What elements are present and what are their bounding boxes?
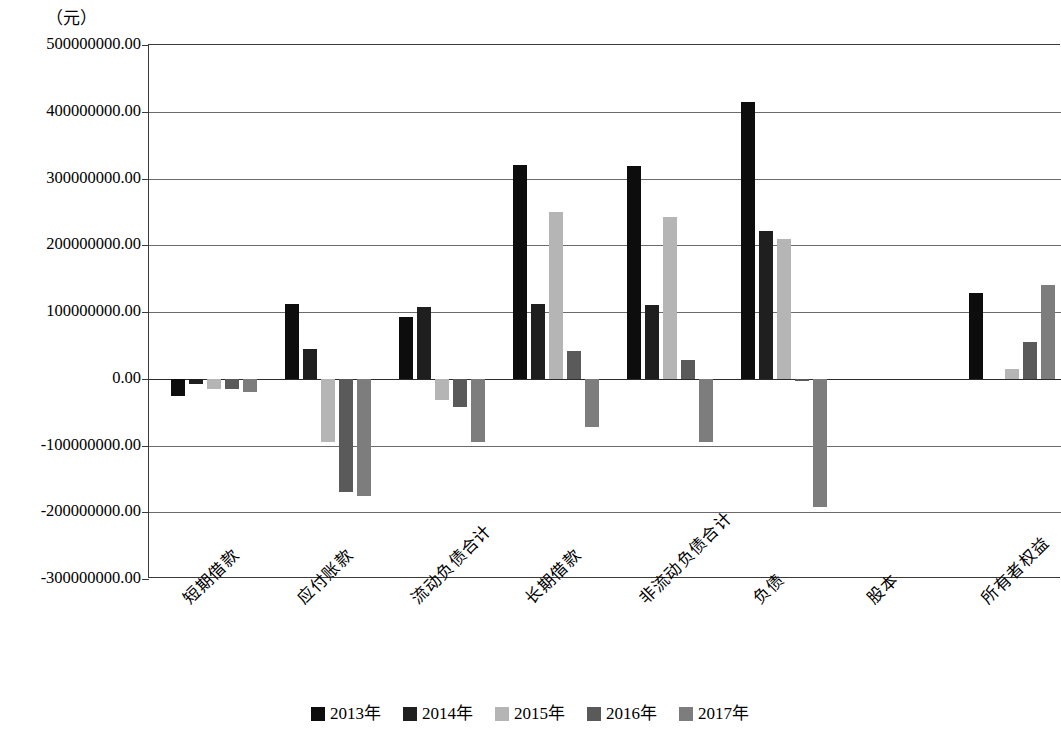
bar[interactable]	[663, 217, 677, 379]
bar[interactable]	[813, 379, 827, 507]
bar[interactable]	[417, 307, 431, 378]
plot-area	[148, 44, 1060, 578]
legend-swatch-icon	[495, 707, 509, 721]
y-axis-tick	[142, 512, 149, 513]
bar[interactable]	[513, 165, 527, 379]
bar[interactable]	[549, 212, 563, 379]
legend-label: 2013年	[330, 705, 381, 722]
bar[interactable]	[357, 379, 371, 496]
bar[interactable]	[285, 304, 299, 379]
legend-item[interactable]: 2015年	[495, 705, 565, 722]
y-axis-tick-label: 300000000.00	[46, 168, 141, 188]
y-axis-tick	[142, 245, 149, 246]
y-axis-tick-label: 100000000.00	[46, 301, 141, 321]
y-axis-tick-label: 200000000.00	[46, 234, 141, 254]
bar-group	[741, 45, 827, 579]
legend-label: 2014年	[422, 705, 473, 722]
bar-group	[855, 45, 941, 579]
legend-swatch-icon	[587, 707, 601, 721]
y-axis-unit-label: （元）	[46, 4, 97, 29]
bar[interactable]	[1023, 342, 1037, 379]
bar[interactable]	[777, 239, 791, 379]
legend-label: 2016年	[606, 705, 657, 722]
y-axis-tick-label: -100000000.00	[41, 435, 141, 455]
y-axis-tick	[142, 446, 149, 447]
bar[interactable]	[681, 360, 695, 379]
bar[interactable]	[171, 379, 185, 396]
bar-group	[399, 45, 485, 579]
bar[interactable]	[645, 305, 659, 378]
bar[interactable]	[225, 379, 239, 390]
y-axis-tick-label: -300000000.00	[41, 568, 141, 588]
bar[interactable]	[453, 379, 467, 407]
bar[interactable]	[243, 379, 257, 392]
bar[interactable]	[339, 379, 353, 492]
y-axis-tick-label: -200000000.00	[41, 501, 141, 521]
bar-group	[171, 45, 257, 579]
y-axis-tick	[142, 312, 149, 313]
legend-label: 2015年	[514, 705, 565, 722]
legend-item[interactable]: 2017年	[679, 705, 749, 722]
bar[interactable]	[567, 351, 581, 379]
bar[interactable]	[969, 293, 983, 378]
legend-swatch-icon	[679, 707, 693, 721]
legend-swatch-icon	[403, 707, 417, 721]
legend-label: 2017年	[698, 705, 749, 722]
bar[interactable]	[321, 379, 335, 442]
legend-swatch-icon	[311, 707, 325, 721]
bar[interactable]	[471, 379, 485, 442]
bar[interactable]	[741, 102, 755, 379]
bar[interactable]	[207, 379, 221, 389]
x-axis-category-labels: 短期借款应付账款流动负债合计长期借款非流动负债合计负债股本所有者权益	[148, 578, 1060, 688]
bar[interactable]	[1005, 369, 1019, 379]
bar[interactable]	[435, 379, 449, 400]
bar-group	[285, 45, 371, 579]
y-axis-tick	[142, 179, 149, 180]
bar[interactable]	[1041, 285, 1055, 378]
bar-group	[969, 45, 1055, 579]
bar-group	[627, 45, 713, 579]
legend-item[interactable]: 2016年	[587, 705, 657, 722]
y-axis-tick	[142, 112, 149, 113]
bar[interactable]	[531, 304, 545, 379]
bar[interactable]	[795, 379, 809, 381]
y-axis-tick	[142, 379, 149, 380]
bar[interactable]	[585, 379, 599, 428]
y-axis-tick-label: 0.00	[112, 368, 141, 388]
bar-group	[513, 45, 599, 579]
bar[interactable]	[759, 231, 773, 379]
chart-legend: 2013年2014年2015年2016年2017年	[0, 705, 1060, 722]
y-axis-tick-labels: 500000000.00400000000.00300000000.002000…	[0, 44, 141, 578]
y-axis-tick-label: 500000000.00	[46, 34, 141, 54]
bar[interactable]	[699, 379, 713, 442]
bar[interactable]	[627, 166, 641, 378]
bar[interactable]	[399, 317, 413, 378]
bar[interactable]	[303, 349, 317, 379]
bar[interactable]	[189, 379, 203, 384]
y-axis-tick	[142, 45, 149, 46]
y-axis-tick-label: 400000000.00	[46, 101, 141, 121]
legend-item[interactable]: 2014年	[403, 705, 473, 722]
legend-item[interactable]: 2013年	[311, 705, 381, 722]
